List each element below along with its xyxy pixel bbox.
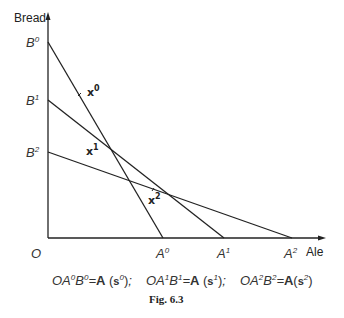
budget-line-0 <box>48 42 163 238</box>
x-axis-label: Ale <box>306 245 324 259</box>
label-x0: x0 <box>87 84 100 99</box>
budget-line-1 <box>48 100 224 238</box>
origin-label: O <box>31 246 41 261</box>
figure-caption: Fig. 6.3 <box>149 293 184 305</box>
label-x1: x1 <box>86 143 99 158</box>
label-B2: B2 <box>26 145 40 160</box>
label-A0: A0 <box>155 246 170 261</box>
x-axis-arrow-icon <box>318 236 326 241</box>
equation-2: OA2B2=A(s2) <box>240 273 313 288</box>
label-A2: A2 <box>283 246 298 261</box>
label-B0: B0 <box>26 35 40 50</box>
y-axis-arrow-icon <box>46 12 51 20</box>
label-B1: B1 <box>26 93 39 108</box>
y-axis-label: Bread <box>14 11 46 25</box>
equation-0: OA0B0=A (s0); <box>52 273 132 288</box>
equation-1: OA1B1=A (s1); <box>146 273 226 288</box>
budget-line-2 <box>48 152 292 238</box>
label-x2: x2 <box>148 192 161 207</box>
budget-lines-diagram: Bread Ale O B0 B1 B2 A0 A1 A2 x0 x1 x2 O… <box>0 0 344 318</box>
label-A1: A1 <box>216 246 230 261</box>
